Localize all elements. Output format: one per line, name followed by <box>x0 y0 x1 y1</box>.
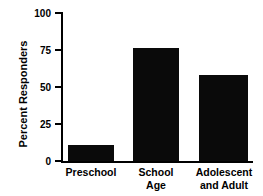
y-axis-line <box>61 12 63 162</box>
bar-school-age <box>133 48 179 161</box>
x-tick-label-preschool: Preschool <box>55 166 127 179</box>
y-tick-label-50: 50 <box>40 82 51 93</box>
y-tick-25 <box>55 123 61 125</box>
y-tick-0 <box>55 160 61 162</box>
y-tick-label-75: 75 <box>40 45 51 56</box>
x-tick-label-adolescent-and-adult: Adolescent and Adult <box>186 166 262 191</box>
y-tick-label-100: 100 <box>34 8 51 19</box>
bar-chart: Percent Responders 100 75 50 25 0 Presch… <box>0 0 263 196</box>
y-tick-label-0: 0 <box>45 156 51 167</box>
x-label-line: Preschool <box>55 166 127 179</box>
y-axis-title: Percent Responders <box>17 19 29 169</box>
x-axis-line <box>61 161 253 163</box>
x-label-line: Age <box>122 179 190 192</box>
x-label-line: and Adult <box>186 179 262 192</box>
y-tick-100 <box>55 12 61 14</box>
y-tick-50 <box>55 86 61 88</box>
bar-adolescent-and-adult <box>199 75 248 161</box>
x-label-line: Adolescent <box>186 166 262 179</box>
y-tick-label-25: 25 <box>40 119 51 130</box>
x-label-line: School <box>122 166 190 179</box>
bar-preschool <box>68 145 114 161</box>
y-tick-75 <box>55 49 61 51</box>
x-tick-label-school-age: School Age <box>122 166 190 191</box>
